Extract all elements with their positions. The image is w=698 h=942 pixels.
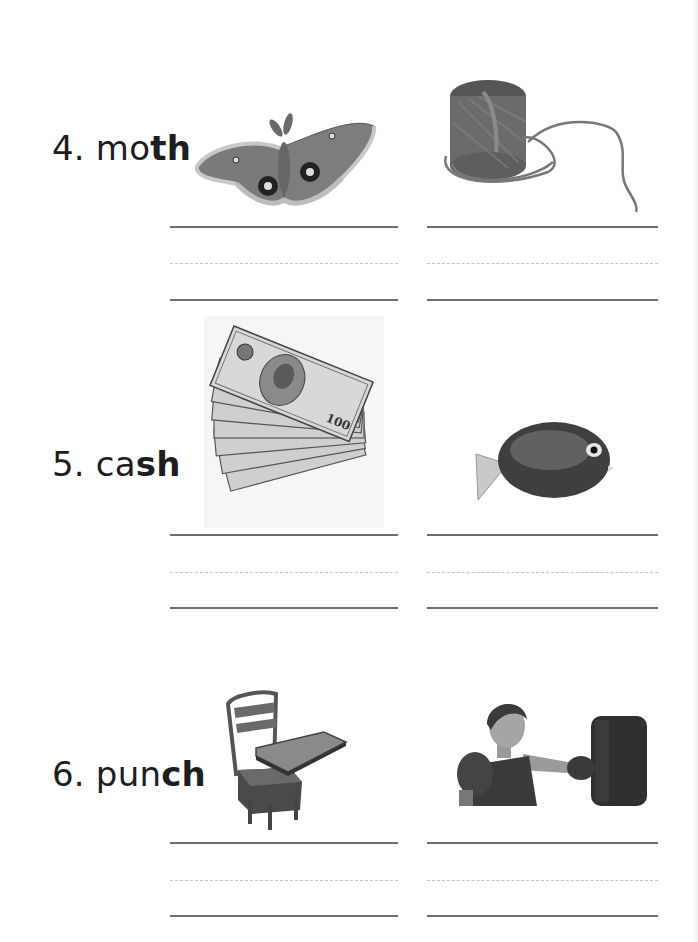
desk-image (224, 690, 349, 830)
writing-line-top (427, 842, 658, 844)
word-label-moth: 4. moth (52, 128, 191, 168)
word-prefix: pun (96, 754, 161, 794)
writing-line-middle (427, 263, 658, 264)
word-digraph: sh (136, 444, 181, 484)
writing-line-middle (427, 572, 658, 573)
worksheet-page: 4. moth (0, 0, 698, 942)
writing-line-top (170, 534, 398, 536)
writing-line-bottom (427, 607, 658, 609)
writing-line-middle (427, 880, 658, 881)
word-digraph: ch (161, 754, 206, 794)
writing-line-top (170, 842, 398, 844)
moth-image (192, 108, 377, 213)
writing-line-bottom (170, 607, 398, 609)
writing-line-middle (170, 880, 398, 881)
word-prefix: mo (96, 128, 150, 168)
writing-line-bottom (427, 915, 658, 917)
word-prefix: ca (96, 444, 136, 484)
cash-image: 100 (204, 316, 384, 528)
writing-line-top (170, 226, 398, 228)
writing-line-bottom (427, 299, 658, 301)
word-label-cash: 5. cash (52, 444, 181, 484)
writing-line-bottom (170, 299, 398, 301)
word-digraph: th (150, 128, 191, 168)
fish-image (466, 414, 616, 506)
writing-line-bottom (170, 915, 398, 917)
writing-line-middle (170, 263, 398, 264)
writing-line-top (427, 534, 658, 536)
page-edge (692, 0, 698, 942)
writing-line-top (427, 226, 658, 228)
item-number: 5. (52, 444, 85, 484)
twine-image (438, 72, 648, 217)
word-label-punch: 6. punch (52, 754, 206, 794)
item-number: 6. (52, 754, 85, 794)
writing-line-middle (170, 572, 398, 573)
item-number: 4. (52, 128, 85, 168)
boxer-image (449, 694, 647, 806)
